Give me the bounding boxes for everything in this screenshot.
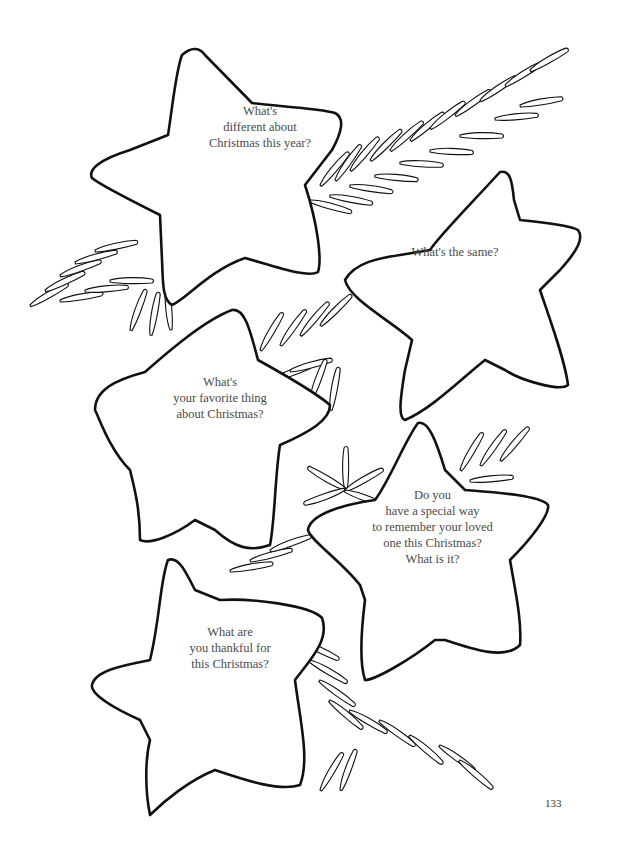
question-line: What's xyxy=(140,374,300,390)
question-line: have a special way xyxy=(340,503,525,519)
question-line: Do you xyxy=(340,487,525,503)
question-star-4: Do you have a special way to remember yo… xyxy=(340,487,525,567)
question-line: Christmas this year? xyxy=(180,135,340,151)
question-line: your favorite thing xyxy=(140,390,300,406)
question-star-1: What's different about Christmas this ye… xyxy=(180,103,340,151)
question-line: What are xyxy=(150,624,310,640)
question-line: What's xyxy=(180,103,340,119)
question-line: What is it? xyxy=(340,551,525,567)
question-line: this Christmas? xyxy=(150,656,310,672)
question-line: you thankful for xyxy=(150,640,310,656)
question-line: different about xyxy=(180,119,340,135)
question-star-3: What's your favorite thing about Christm… xyxy=(140,374,300,422)
question-line: What's the same? xyxy=(380,244,530,260)
star-outline-3 xyxy=(95,310,330,548)
star-outline-2 xyxy=(345,172,580,420)
question-star-2: What's the same? xyxy=(380,244,530,260)
star-outline-1 xyxy=(91,49,341,305)
star-outline-5 xyxy=(92,559,324,815)
pine-branch-icon xyxy=(309,46,569,215)
question-line: one this Christmas? xyxy=(340,535,525,551)
page-number: 133 xyxy=(545,797,562,809)
pine-branch-icon xyxy=(29,239,174,336)
question-line: to remember your loved xyxy=(340,519,525,535)
question-line: about Christmas? xyxy=(140,406,300,422)
question-star-5: What are you thankful for this Christmas… xyxy=(150,624,310,672)
